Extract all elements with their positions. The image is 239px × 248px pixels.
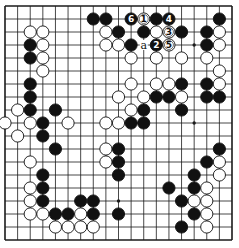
black-stone	[213, 13, 225, 25]
black-stone	[112, 156, 124, 168]
move-number-label: 5	[166, 40, 172, 50]
white-stone	[0, 117, 11, 129]
black-stone	[112, 143, 124, 155]
black-stone	[201, 156, 213, 168]
black-stone	[24, 52, 36, 64]
move-number-label: 1	[141, 14, 147, 24]
black-stone	[138, 26, 150, 38]
black-stone	[163, 182, 175, 194]
black-stone	[100, 13, 112, 25]
white-stone	[24, 117, 36, 129]
black-stone	[163, 91, 175, 103]
white-stone	[213, 169, 225, 181]
white-stone	[100, 143, 112, 155]
black-stone	[175, 195, 187, 207]
black-stone	[150, 91, 162, 103]
go-board: 123456a	[0, 0, 239, 248]
black-stone	[37, 117, 49, 129]
white-stone	[37, 208, 49, 220]
white-stone	[150, 26, 162, 38]
move-number-label: 6	[128, 14, 134, 24]
black-stone	[24, 91, 36, 103]
black-stone	[201, 39, 213, 51]
white-stone	[213, 26, 225, 38]
white-stone	[100, 156, 112, 168]
black-stone	[112, 169, 124, 181]
white-stone	[112, 39, 124, 51]
black-stone	[37, 195, 49, 207]
black-stone	[175, 26, 187, 38]
white-stone	[87, 221, 99, 233]
white-stone	[37, 39, 49, 51]
black-stone	[175, 78, 187, 90]
black-stone	[188, 169, 200, 181]
black-stone	[24, 104, 36, 116]
white-stone	[75, 221, 87, 233]
white-stone	[112, 117, 124, 129]
black-stone	[87, 13, 99, 25]
star-point	[192, 43, 195, 46]
white-stone	[125, 78, 137, 90]
white-stone	[100, 39, 112, 51]
white-stone	[12, 104, 24, 116]
white-stone	[175, 91, 187, 103]
white-stone	[163, 78, 175, 90]
black-stone	[112, 26, 124, 38]
black-stone	[125, 117, 137, 129]
white-stone	[188, 195, 200, 207]
white-stone	[62, 117, 74, 129]
black-stone	[150, 13, 162, 25]
white-stone	[213, 78, 225, 90]
white-stone	[24, 195, 36, 207]
white-stone	[201, 208, 213, 220]
star-point	[192, 121, 195, 124]
white-stone	[37, 65, 49, 77]
white-stone	[62, 221, 74, 233]
black-stone	[175, 104, 187, 116]
white-stone	[125, 104, 137, 116]
black-stone	[37, 182, 49, 194]
black-stone	[49, 208, 61, 220]
white-stone	[150, 78, 162, 90]
white-stone	[150, 52, 162, 64]
white-stone	[201, 195, 213, 207]
white-stone	[213, 39, 225, 51]
black-stone	[37, 169, 49, 181]
white-stone	[100, 26, 112, 38]
white-stone	[138, 91, 150, 103]
black-stone	[87, 195, 99, 207]
move-number-label: 4	[166, 14, 172, 24]
black-stone	[138, 117, 150, 129]
white-stone	[75, 208, 87, 220]
black-stone	[37, 130, 49, 142]
black-stone	[112, 208, 124, 220]
white-stone	[12, 130, 24, 142]
black-stone	[75, 195, 87, 207]
white-stone	[37, 52, 49, 64]
black-stone	[188, 182, 200, 194]
white-stone	[213, 156, 225, 168]
black-stone	[188, 208, 200, 220]
white-stone	[37, 26, 49, 38]
black-stone	[24, 78, 36, 90]
white-stone	[201, 221, 213, 233]
white-stone	[24, 208, 36, 220]
star-point	[117, 199, 120, 202]
black-stone	[87, 208, 99, 220]
white-stone	[201, 182, 213, 194]
black-stone	[201, 78, 213, 90]
white-stone	[100, 117, 112, 129]
black-stone	[49, 143, 61, 155]
white-stone	[201, 52, 213, 64]
black-stone	[175, 221, 187, 233]
white-stone	[24, 26, 36, 38]
move-number-label: 2	[153, 40, 159, 50]
black-stone	[49, 104, 61, 116]
black-stone	[213, 143, 225, 155]
white-stone	[24, 156, 36, 168]
white-stone	[175, 52, 187, 64]
black-stone	[213, 91, 225, 103]
white-stone	[49, 221, 61, 233]
point-letter-label: a	[140, 39, 147, 52]
go-board-diagram: 123456a	[0, 0, 239, 248]
